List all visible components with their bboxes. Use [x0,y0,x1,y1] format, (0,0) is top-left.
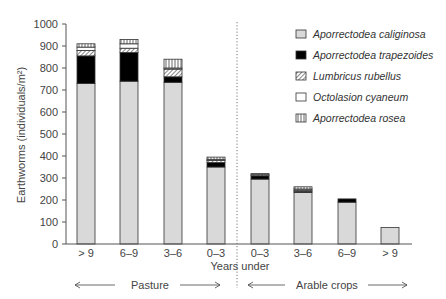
legend: Aporrectodea caliginosaAporrectodea trap… [296,28,434,124]
bar-segment [164,59,182,68]
bar-segment [164,69,182,77]
bar-segment [294,187,312,189]
x-tick-label: > 9 [382,247,398,259]
bar-segment [77,47,95,50]
legend-swatch [296,72,306,80]
arable-group-label: Arable crops [248,279,407,291]
y-tick-label: 600 [40,106,58,118]
y-axis: 01002003004005006007008009001000 [34,18,66,250]
bar-segment [77,44,95,47]
x-tick-label: 6–9 [120,247,138,259]
bar-stack [164,59,182,244]
legend-label: Aporrectodea rosea [312,112,405,124]
y-tick-label: 400 [40,150,58,162]
x-tick-label: 6–9 [338,247,356,259]
x-tick-label: 0–3 [207,247,225,259]
stacked-bar-chart: 01002003004005006007008009001000 > 96–93… [0,0,446,299]
x-tick-label: 0–3 [251,247,269,259]
bar-stack [120,39,138,244]
legend-swatch [296,30,306,38]
bar-segment [120,48,138,52]
svg-text:Pasture: Pasture [131,279,169,291]
bar-segment [164,77,182,83]
bar-segment [294,192,312,244]
x-axis-title: Years under [211,260,270,272]
bar-segment [338,199,356,202]
bar-segment [207,163,225,167]
bar-stack [251,174,269,244]
bar-segment [77,83,95,244]
y-tick-label: 1000 [34,18,58,30]
bar-segment [207,157,225,159]
y-tick-label: 900 [40,40,58,52]
pasture-group-label: Pasture [75,279,220,291]
bar-stack [381,228,399,245]
x-axis: > 96–93–60–30–33–66–9> 9 [66,244,412,259]
bar-stack [77,44,95,244]
bar-segment [251,179,269,244]
bar-segment [120,81,138,244]
bar-segment [77,56,95,84]
x-tick-label: > 9 [78,247,94,259]
legend-swatch [296,93,306,101]
bar-segment [164,82,182,244]
y-tick-label: 300 [40,172,58,184]
y-axis-title: Earthworms (individuals/m²) [15,67,27,203]
legend-swatch [296,51,306,59]
bar-segment [77,50,95,56]
bar-segment [207,167,225,244]
bar-segment [338,202,356,244]
legend-label: Aporrectodea caliginosa [312,28,426,40]
y-tick-label: 0 [52,238,58,250]
bar-segment [120,53,138,82]
legend-swatch [296,114,306,122]
y-tick-label: 700 [40,84,58,96]
y-tick-label: 200 [40,194,58,206]
legend-label: Octolasion cyaneum [313,91,408,103]
bar-stack [338,199,356,244]
y-tick-label: 100 [40,216,58,228]
bar-segment [120,39,138,43]
bar-stack [207,157,225,244]
y-tick-label: 500 [40,128,58,140]
y-tick-label: 800 [40,62,58,74]
bar-segment [381,228,399,245]
bar-segment [251,174,269,175]
x-tick-label: 3–6 [294,247,312,259]
legend-label: Lumbricus rubellus [313,70,402,82]
bar-stack [294,187,312,244]
bar-segment [120,44,138,48]
legend-label: Aporrectodea trapezoides [312,49,434,61]
x-tick-label: 3–6 [164,247,182,259]
svg-text:Arable crops: Arable crops [296,279,358,291]
bar-segment [251,176,269,179]
